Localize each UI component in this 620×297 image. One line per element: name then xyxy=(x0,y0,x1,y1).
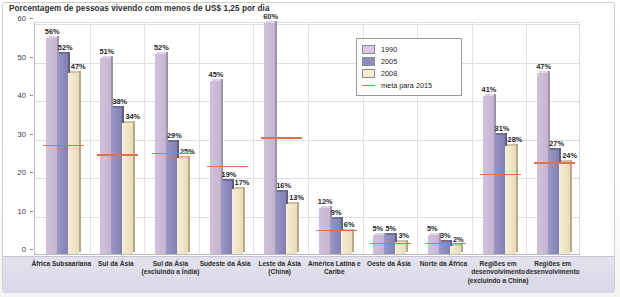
bar-face xyxy=(483,96,494,254)
bar-group: 45%19%17% xyxy=(199,23,254,254)
data-label: 51% xyxy=(99,47,114,56)
data-label: 28% xyxy=(508,135,523,144)
x-axis-label: África Subsaariana xyxy=(30,260,93,268)
data-label: 56% xyxy=(45,27,60,36)
y-tick-label: 40 xyxy=(18,91,26,100)
bar-1990[interactable] xyxy=(428,235,439,254)
x-axis-label: América Latina e Caribe xyxy=(303,260,366,277)
bar-group: 47%27%24% xyxy=(526,23,581,254)
x-axis-label: Sudeste da Ásia xyxy=(194,260,257,268)
bar-face xyxy=(548,150,559,254)
bar-2008[interactable] xyxy=(232,189,243,254)
data-label: 5% xyxy=(385,224,396,233)
data-label: 29% xyxy=(167,131,182,140)
legend-swatch-1990 xyxy=(362,45,375,54)
bar-2008[interactable] xyxy=(286,204,297,254)
x-axis-label: Oeste da Ásia xyxy=(358,260,421,268)
bar-side xyxy=(461,244,463,252)
y-axis: 0102030405060 xyxy=(0,16,30,250)
data-label: 5% xyxy=(427,224,438,233)
bar-face xyxy=(100,58,111,254)
bar-face xyxy=(450,246,461,254)
bar-face xyxy=(232,189,243,254)
data-label: 60% xyxy=(263,12,278,21)
bar-group: 41%31%28% xyxy=(472,23,527,254)
bar-face xyxy=(275,192,286,254)
bar-side xyxy=(570,160,572,252)
bar-face xyxy=(177,158,188,254)
bar-2005[interactable] xyxy=(166,142,177,254)
y-tick-mark xyxy=(30,249,33,250)
bar-2008[interactable] xyxy=(68,73,79,254)
bar-2008[interactable] xyxy=(177,158,188,254)
bar-2005[interactable] xyxy=(57,54,68,254)
target-line-meta-2015 xyxy=(43,145,84,146)
bar-face xyxy=(428,235,439,254)
bar-face xyxy=(221,181,232,254)
bar-group: 12%9%6% xyxy=(308,23,363,254)
bar-2008[interactable] xyxy=(559,162,570,254)
data-label: 3% xyxy=(398,231,409,240)
bar-2005[interactable] xyxy=(330,219,341,254)
data-label: 5% xyxy=(372,224,383,233)
bar-2008[interactable] xyxy=(122,123,133,254)
data-label: 6% xyxy=(344,220,355,229)
legend-label-2005: 2005 xyxy=(381,57,397,66)
bar-1990[interactable] xyxy=(483,96,494,254)
bar-1990[interactable] xyxy=(46,38,57,254)
bar-1990[interactable] xyxy=(537,73,548,254)
plot-canvas: 56%52%47%51%38%34%52%29%25%45%19%17%60%1… xyxy=(34,22,580,255)
bar-2005[interactable] xyxy=(275,192,286,254)
bar-face xyxy=(155,54,166,254)
y-tick-mark xyxy=(30,18,33,19)
bar-2008[interactable] xyxy=(450,246,461,254)
bar-1990[interactable] xyxy=(155,54,166,254)
bar-side xyxy=(516,144,518,252)
bar-2005[interactable] xyxy=(548,150,559,254)
y-tick-mark xyxy=(30,172,33,173)
data-label: 3% xyxy=(440,231,451,240)
data-label: 45% xyxy=(209,70,224,79)
bar-face xyxy=(384,235,395,254)
data-label: 16% xyxy=(276,181,291,190)
bar-2005[interactable] xyxy=(494,135,505,254)
legend-item-1990: 1990 xyxy=(362,43,456,55)
data-label: 52% xyxy=(58,43,73,52)
legend-item-2008: 2008 xyxy=(362,67,456,79)
legend-swatch-2005 xyxy=(362,57,375,66)
bar-2005[interactable] xyxy=(111,108,122,254)
bar-1990[interactable] xyxy=(373,235,384,254)
bar-group: 60%16%13% xyxy=(253,23,308,254)
data-label: 13% xyxy=(289,193,304,202)
bar-1990[interactable] xyxy=(319,208,330,254)
y-tick-mark xyxy=(30,211,33,212)
data-label: 17% xyxy=(235,178,250,187)
bar-2008[interactable] xyxy=(505,146,516,254)
y-tick-label: 60 xyxy=(18,14,26,23)
x-axis-label: Sul da Ásia xyxy=(85,260,148,268)
data-label: 27% xyxy=(549,139,564,148)
bar-1990[interactable] xyxy=(264,23,275,254)
target-line-meta-2015 xyxy=(97,154,138,155)
data-label: 47% xyxy=(71,62,86,71)
data-label: 52% xyxy=(154,43,169,52)
x-axis-label: Regiões em desenvolvimento xyxy=(521,260,584,277)
bar-1990[interactable] xyxy=(210,81,221,254)
bar-side xyxy=(79,71,81,252)
x-axis-label: Sul da Ásia (excluindo a Índia) xyxy=(139,260,202,277)
y-tick-mark xyxy=(30,95,33,96)
data-label: 41% xyxy=(482,85,497,94)
data-label: 31% xyxy=(495,124,510,133)
bar-2005[interactable] xyxy=(221,181,232,254)
bar-1990[interactable] xyxy=(100,58,111,254)
bar-group: 56%52%47% xyxy=(35,23,90,254)
target-line-meta-2015 xyxy=(370,243,411,244)
bar-face xyxy=(341,231,352,254)
bar-2005[interactable] xyxy=(384,235,395,254)
bar-face xyxy=(68,73,79,254)
target-line-meta-2015 xyxy=(261,137,302,138)
data-label: 47% xyxy=(536,62,551,71)
bar-2008[interactable] xyxy=(341,231,352,254)
target-line-meta-2015 xyxy=(480,174,521,175)
legend-item-meta-2015: meta para 2015 xyxy=(362,79,456,91)
